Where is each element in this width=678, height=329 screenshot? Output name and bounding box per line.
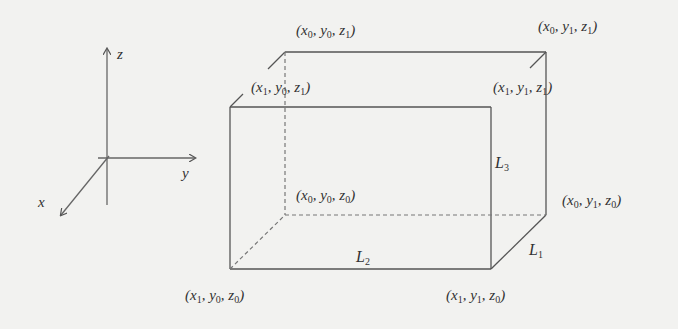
coordinate-axes	[61, 49, 195, 215]
edge-label-L3: L3	[495, 155, 509, 173]
vertex-label-x0-y0-z1: (x0, y0, z1)	[296, 23, 355, 40]
vertex-label-x1-y0-z1: (x1, y0, z1)	[251, 80, 310, 97]
vertex-label-x0-y1-z1: (x0, y1, z1)	[538, 19, 597, 36]
vertex-label-x0-y1-z0: (x0, y1, z0)	[562, 193, 621, 210]
edge-label-L1: L1	[529, 242, 543, 260]
vertex-label-x1-y1-z0: (x1, y1, z0)	[446, 288, 505, 305]
diagram-canvas	[0, 0, 678, 329]
vertex-label-x1-y0-z0: (x1, y0, z0)	[185, 288, 244, 305]
vertex-label-x1-y1-z1: (x1, y1, z1)	[493, 80, 552, 97]
edge-top-right-depth	[530, 52, 546, 68]
z-axis-label: z	[117, 47, 123, 62]
hidden-edge-bottom-left-depth	[230, 215, 285, 269]
x-axis	[61, 156, 109, 215]
edge-label-L2: L2	[356, 249, 370, 267]
vertex-label-x0-y0-z0: (x0, y0, z0)	[296, 188, 355, 205]
edge-top-left-depth	[268, 52, 285, 69]
y-axis-label: y	[182, 166, 189, 181]
rectangular-box-diagram: z y x (x0, y0, z1) (x0, y1, z1) (x1, y0,…	[0, 0, 678, 329]
edge-front-top-left-stub	[230, 94, 243, 107]
x-axis-label: x	[38, 195, 45, 210]
